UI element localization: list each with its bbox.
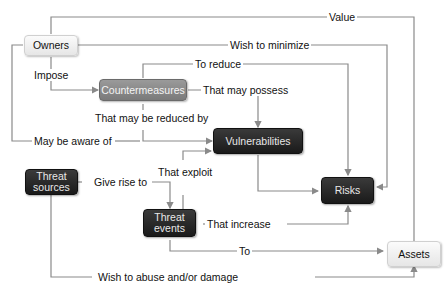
node-assets[interactable]: Assets xyxy=(387,241,441,267)
node-risks[interactable]: Risks xyxy=(321,177,374,204)
node-threat-events-line2: events xyxy=(154,223,185,234)
node-countermeasures-label: Countermeasures xyxy=(101,85,184,96)
edge-label-wish-to-abuse: Wish to abuse and/or damage xyxy=(96,271,240,283)
edge-label-may-be-aware-of: May be aware of xyxy=(32,135,114,147)
node-owners-label: Owners xyxy=(33,40,69,51)
edge-label-to: To xyxy=(237,245,252,257)
node-vulnerabilities[interactable]: Vulnerabilities xyxy=(213,128,303,154)
edge-label-that-may-possess: That may possess xyxy=(201,84,290,96)
node-threat-sources-line2: sources xyxy=(33,182,70,193)
edge-label-give-rise-to: Give rise to xyxy=(92,176,149,188)
node-countermeasures[interactable]: Countermeasures xyxy=(99,79,187,101)
security-concepts-diagram: Owners Countermeasures Vulnerabilities T… xyxy=(0,0,447,291)
edge-label-wish-to-minimize: Wish to minimize xyxy=(228,39,311,51)
node-owners[interactable]: Owners xyxy=(24,35,78,56)
node-threat-sources[interactable]: Threat sources xyxy=(25,169,78,195)
edge-label-value: Value xyxy=(327,11,357,23)
edge-label-to-reduce: To reduce xyxy=(193,58,243,70)
node-assets-label: Assets xyxy=(398,249,430,260)
node-risks-label: Risks xyxy=(335,185,361,196)
edge-label-that-exploit: That exploit xyxy=(156,166,214,178)
edge-label-that-may-be-reduced-by: That may be reduced by xyxy=(93,112,210,124)
node-vulnerabilities-label: Vulnerabilities xyxy=(226,136,291,147)
edge-label-impose: Impose xyxy=(32,69,70,81)
edge-label-that-increase: That increase xyxy=(205,218,273,230)
node-threat-events[interactable]: Threat events xyxy=(143,209,196,237)
